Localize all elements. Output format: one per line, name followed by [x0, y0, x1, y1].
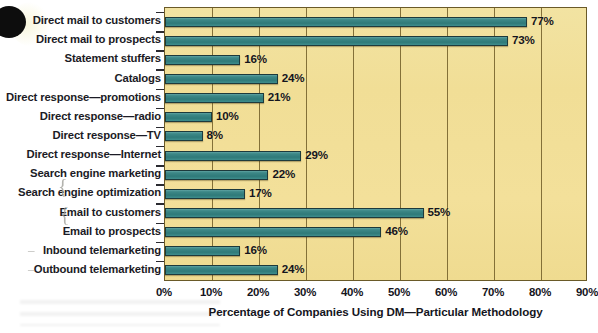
gridline [541, 8, 542, 280]
pencil-annotation-mark: { [58, 176, 68, 196]
category-label: Direct response—promotions [6, 91, 161, 103]
category-label: Direct response—TV [53, 129, 161, 141]
y-axis-tick [156, 146, 164, 147]
bar [165, 208, 424, 218]
y-axis-tick [156, 89, 164, 90]
bar [165, 112, 212, 122]
horizontal-bar-chart: 77%Direct mail to customers73%Direct mai… [0, 0, 598, 333]
y-axis-tick [156, 12, 164, 13]
y-axis-tick [156, 50, 164, 51]
bar-value-label: 73% [512, 33, 535, 46]
x-axis-tick-label: 70% [482, 286, 504, 298]
bar-value-label: 24% [282, 262, 305, 275]
gridline [447, 8, 448, 280]
category-label: Direct response—Internet [26, 148, 161, 160]
x-axis-tick-label: 10% [200, 286, 222, 298]
bar [165, 227, 381, 237]
bar-value-label: 8% [207, 128, 223, 141]
category-label: Email to prospects [63, 225, 161, 237]
y-axis-tick [156, 165, 164, 166]
bar [165, 93, 264, 103]
y-axis-tick [156, 31, 164, 32]
category-label: Statement stuffers [65, 52, 161, 64]
x-axis-tick-label: 80% [529, 286, 551, 298]
bar [165, 55, 240, 65]
bar-value-label: 21% [268, 90, 291, 103]
gridline [212, 8, 213, 280]
bar-value-label: 46% [385, 224, 408, 237]
bar [165, 17, 527, 27]
y-axis-tick [156, 223, 164, 224]
category-label: Direct mail to prospects [36, 33, 161, 45]
bar [165, 265, 278, 275]
x-axis-tick-label: 30% [294, 286, 316, 298]
x-axis-tick-label: 50% [388, 286, 410, 298]
category-label: Direct response—radio [40, 110, 161, 122]
x-axis-tick-label: 90% [576, 286, 598, 298]
bar-value-label: 10% [216, 109, 239, 122]
bar [165, 246, 240, 256]
bar [165, 170, 268, 180]
pencil-annotation-mark: – [28, 243, 35, 256]
x-axis-tick-label: 20% [247, 286, 269, 298]
y-axis-tick [156, 127, 164, 128]
y-axis-tick [156, 242, 164, 243]
gridline [259, 8, 260, 280]
bar [165, 131, 203, 141]
x-axis-title: Percentage of Companies Using DM—Particu… [164, 305, 587, 318]
bar-value-label: 22% [272, 167, 295, 180]
y-axis-tick [156, 203, 164, 204]
bar-value-label: 16% [244, 52, 267, 65]
category-label: Email to customers [59, 206, 161, 218]
gridline [494, 8, 495, 280]
category-label: Catalogs [114, 72, 161, 84]
gridline [400, 8, 401, 280]
bar-value-label: 77% [531, 14, 554, 27]
category-label: Outbound telemarketing [34, 263, 161, 275]
category-label: Search engine marketing [30, 167, 161, 179]
plot-area [164, 7, 587, 281]
x-axis-tick-label: 0% [156, 286, 172, 298]
pencil-annotation-mark: { [60, 204, 70, 224]
bar-value-label: 16% [244, 243, 267, 256]
bar [165, 36, 508, 46]
bar [165, 189, 245, 199]
bar-value-label: 29% [305, 148, 328, 161]
y-axis-tick [156, 69, 164, 70]
bar [165, 74, 278, 84]
y-axis-tick [156, 184, 164, 185]
category-label: Inbound telemarketing [43, 244, 161, 256]
gridline [306, 8, 307, 280]
y-axis-tick [156, 108, 164, 109]
bar-value-label: 17% [249, 186, 272, 199]
bar-value-label: 24% [282, 71, 305, 84]
category-label: Search engine optimization [18, 186, 161, 198]
pencil-annotation-mark: – [28, 262, 35, 275]
category-label: Direct mail to customers [33, 14, 161, 26]
x-axis-tick-label: 40% [341, 286, 363, 298]
bar [165, 151, 301, 161]
y-axis-tick [156, 261, 164, 262]
bar-value-label: 55% [428, 205, 451, 218]
x-axis-tick-label: 60% [435, 286, 457, 298]
gridline [353, 8, 354, 280]
